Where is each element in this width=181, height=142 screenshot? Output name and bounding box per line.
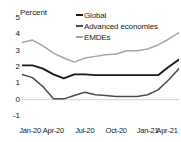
legend-item-emdes: EMDEs <box>76 32 180 42</box>
legend-swatch-global <box>76 14 83 16</box>
chart-legend: Global Advanced economies EMDEs <box>76 10 180 43</box>
y-tick-label: 1 <box>0 79 20 87</box>
legend-label-global: Global <box>84 11 106 20</box>
y-tick-label: 3 <box>0 47 20 55</box>
x-tick-label: Oct-20 <box>106 126 127 135</box>
series-line-advanced-economies <box>22 69 179 99</box>
x-axis: Jan-20Apr-20Jul-20Oct-20Jan-21Apr-21 <box>16 126 181 138</box>
legend-label-emdes: EMDEs <box>84 33 110 42</box>
y-tick-label: 0 <box>0 96 20 104</box>
x-tick-label: Jan-21 <box>137 126 159 135</box>
y-axis-title: Percent <box>20 8 47 17</box>
x-tick-label: Jan-20 <box>19 126 41 135</box>
y-tick-label: 5 <box>0 14 20 22</box>
x-tick-label: Jul-20 <box>75 126 94 135</box>
legend-swatch-emdes <box>76 36 83 38</box>
legend-label-advanced-economies: Advanced economies <box>84 22 158 31</box>
legend-swatch-advanced-economies <box>76 25 83 27</box>
legend-item-advanced-economies: Advanced economies <box>76 21 180 31</box>
x-tick-label: Apr-21 <box>156 126 177 135</box>
x-tick-label: Apr-20 <box>43 126 64 135</box>
y-tick-label: 4 <box>0 30 20 38</box>
y-tick-label: 2 <box>0 63 20 71</box>
series-line-global <box>22 60 179 79</box>
legend-item-global: Global <box>76 10 180 20</box>
y-axis: 543210-1 <box>0 0 20 142</box>
percent-line-chart: Percent 543210-1 Jan-20Apr-20Jul-20Oct-2… <box>0 0 181 142</box>
y-tick-label: -1 <box>0 112 20 120</box>
